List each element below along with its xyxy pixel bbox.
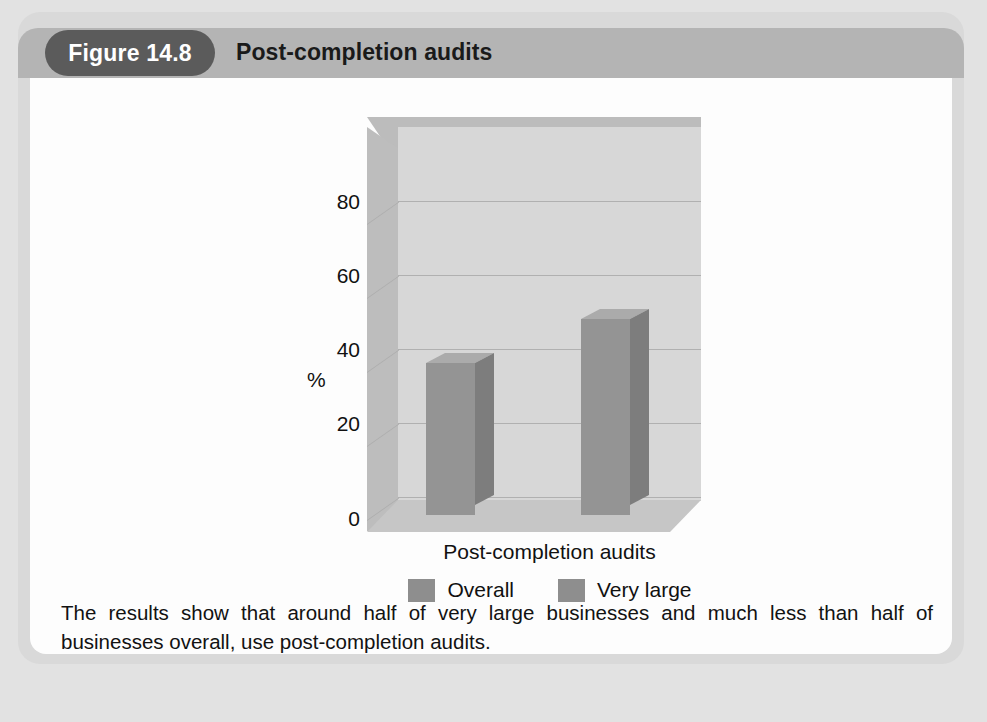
- chart-floor: [367, 500, 701, 532]
- figure-card: Figure 14.8 Post-completion audits: [18, 12, 964, 664]
- bar-very-large-side: [630, 309, 649, 505]
- figure-body-panel: 80 60 40 20 0 % Post-completion audits O…: [30, 78, 952, 654]
- figure-title: Post-completion audits: [236, 39, 493, 66]
- gridline-80: [398, 201, 701, 202]
- figure-number-label: Figure 14.8: [68, 40, 192, 67]
- bar-overall-side: [475, 353, 494, 505]
- y-axis-title: %: [307, 368, 326, 392]
- y-axis: 80 60 40 20 0: [288, 78, 360, 548]
- y-tick-80: 80: [337, 191, 360, 212]
- bar-overall-face[interactable]: [426, 363, 475, 515]
- y-tick-20: 20: [337, 413, 360, 434]
- scanned-page: Figure 14.8 Post-completion audits: [0, 0, 987, 722]
- y-tick-0: 0: [348, 508, 360, 529]
- figure-number-badge: Figure 14.8: [45, 30, 215, 76]
- figure-caption: The results show that around half of ver…: [61, 598, 933, 656]
- bar-chart: 80 60 40 20 0 % Post-completion audits O…: [30, 78, 952, 548]
- gridline-60: [398, 275, 701, 276]
- x-axis-category-label: Post-completion audits: [398, 540, 701, 564]
- gridline-40: [398, 349, 701, 350]
- bar-very-large-face[interactable]: [581, 319, 630, 515]
- y-tick-60: 60: [337, 265, 360, 286]
- y-tick-40: 40: [337, 339, 360, 360]
